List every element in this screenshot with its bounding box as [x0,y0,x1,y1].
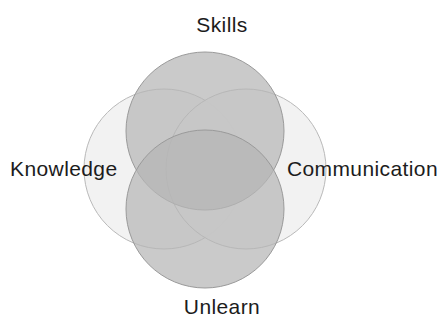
venn-circle-unlearn [126,130,284,288]
venn-label-communication: Communication [287,158,438,179]
venn-diagram-figure: Skills Knowledge Communication Unlearn [0,0,444,329]
venn-label-skills: Skills [0,14,444,35]
venn-label-unlearn: Unlearn [0,296,444,317]
venn-label-knowledge: Knowledge [10,158,118,179]
